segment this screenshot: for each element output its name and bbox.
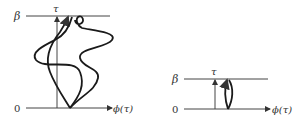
phi-axis-label: ϕ(τ): [272, 104, 292, 115]
zero-label: 0: [14, 103, 20, 114]
zero-label: 0: [172, 104, 178, 115]
right-panel: β 0 τ ϕ(τ): [171, 66, 292, 115]
beta-label: β: [13, 10, 20, 23]
phi-axis-label: ϕ(τ): [113, 103, 133, 114]
left-panel: β 0 τ ϕ(τ): [13, 3, 133, 114]
tau-label: τ: [53, 3, 59, 14]
beta-label: β: [171, 73, 178, 86]
field-paths: [35, 16, 113, 108]
field-paths: [225, 80, 232, 109]
tau-label: τ: [211, 66, 217, 77]
path-integral-diagram: β 0 τ ϕ(τ) β 0 τ ϕ(τ): [0, 0, 305, 123]
